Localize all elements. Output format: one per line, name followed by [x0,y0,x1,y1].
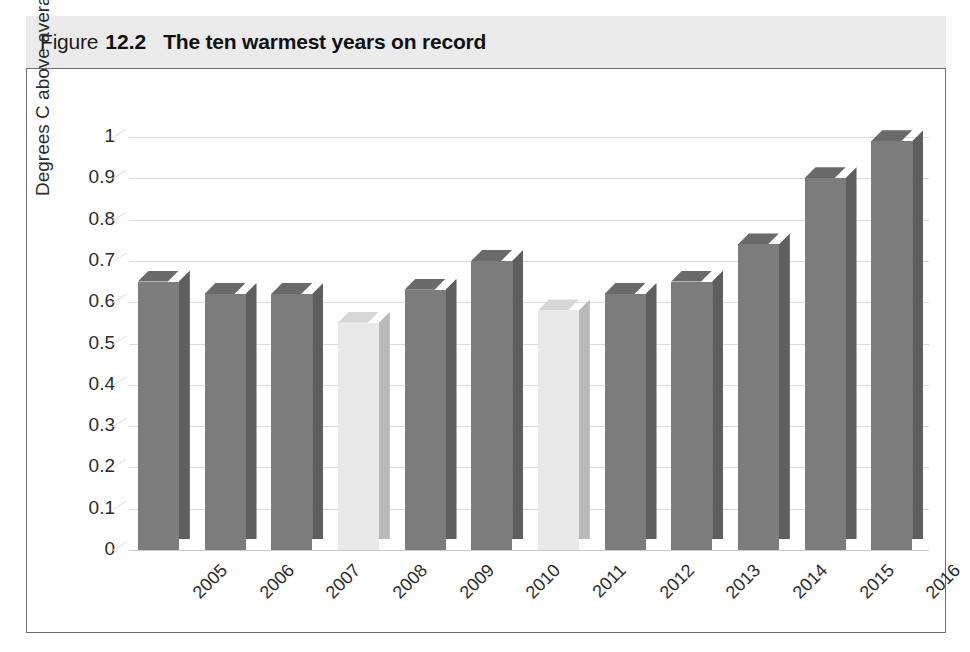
bar-top-face [471,250,512,261]
bar-front-face [671,282,712,550]
bar-2008 [338,323,379,550]
bar-front-face [538,310,579,550]
bar-side-face [512,250,523,539]
y-axis-tick-label: 0.5 [69,332,115,354]
bar-2009 [405,290,446,550]
bar-2005 [138,282,179,550]
bar-side-face [446,279,457,539]
bar-2010 [471,261,512,550]
bar-front-face [405,290,446,550]
plot-area [129,137,929,550]
gridline [129,137,929,138]
y-axis-tick-label: 0 [69,538,115,560]
y-axis-tick-label: 0.3 [69,414,115,436]
bar-top-face [338,312,379,323]
bar-front-face [605,294,646,550]
bar-front-face [871,141,912,550]
y-axis-tick-label: 0.4 [69,373,115,395]
gridline [129,550,929,551]
bar-top-face [738,233,779,244]
bar-top-face [805,167,846,178]
bar-side-face [312,283,323,539]
figure-page: Figure 12.2 The ten warmest years on rec… [0,0,970,652]
bar-2006 [205,294,246,550]
bar-2013 [671,282,712,550]
bar-2014 [738,244,779,550]
y-axis-tick-label: 0.2 [69,455,115,477]
bar-side-face [912,130,923,539]
bar-top-face [138,271,179,282]
bar-front-face [138,282,179,550]
bar-front-face [738,244,779,550]
bar-2015 [805,178,846,550]
bar-side-face [179,271,190,539]
y-axis-title: Degrees C above average [32,0,54,196]
y-axis-tick-label: 0.6 [69,290,115,312]
figure-title: The ten warmest years on record [163,30,486,54]
bar-side-face [579,299,590,539]
y-axis-tick-label: 0.9 [69,166,115,188]
bar-front-face [205,294,246,550]
figure-caption-band: Figure 12.2 The ten warmest years on rec… [26,16,946,68]
bar-side-face [779,233,790,539]
figure-number: 12.2 [105,30,146,54]
bar-2011 [538,310,579,550]
bar-side-face [379,312,390,539]
bar-top-face [538,299,579,310]
bar-front-face [271,294,312,550]
bar-side-face [246,283,257,539]
bar-top-face [205,283,246,294]
bar-top-face [405,279,446,290]
bar-2012 [605,294,646,550]
y-axis-tick-label: 0.1 [69,497,115,519]
bar-2016 [871,141,912,550]
bar-top-face [605,283,646,294]
bar-top-face [671,271,712,282]
y-axis-tick-label: 0.7 [69,249,115,271]
bar-front-face [471,261,512,550]
y-axis-tick-label: 0.8 [69,208,115,230]
bar-side-face [846,167,857,539]
bar-top-face [271,283,312,294]
y-axis-tick-label: 1 [69,125,115,147]
bar-side-face [646,283,657,539]
bar-front-face [338,323,379,550]
bar-front-face [805,178,846,550]
bar-side-face [712,271,723,539]
bar-2007 [271,294,312,550]
